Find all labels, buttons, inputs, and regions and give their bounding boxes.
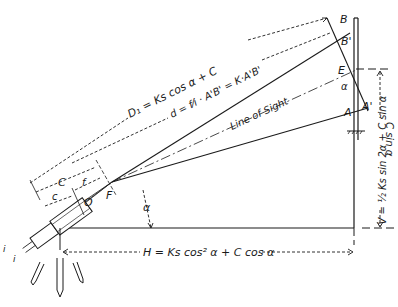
point-a-prime: A' — [361, 100, 373, 113]
perpendicular-rod-line — [327, 18, 368, 111]
alpha-label-e: α — [341, 81, 348, 92]
point-f: F — [106, 189, 113, 202]
point-o: O — [84, 196, 93, 209]
c-big-label: C — [58, 176, 66, 189]
d-dimension: d = f⁄i · A'B' = K·A'B' — [72, 33, 330, 163]
h-dimension: H = Ks cos² α + C cos α — [63, 246, 353, 259]
c-small-label: c — [52, 191, 58, 202]
i-label-bottom: i — [13, 254, 16, 264]
line-of-sight-label: Line of Sight — [228, 95, 290, 132]
point-a: A — [343, 106, 352, 119]
point-b-prime: B' — [341, 35, 352, 48]
point-e: E — [338, 64, 345, 77]
alpha-angle-f: α — [143, 190, 153, 228]
v-formula: V = ½ Ks sin 2α + C sin α — [377, 95, 388, 224]
alpha-label-f: α — [143, 201, 151, 214]
f-label: f — [82, 177, 87, 188]
i-label-top: i — [3, 244, 6, 254]
h-formula: H = Ks cos² α + C cos α — [143, 246, 275, 259]
v-dimension: C sin α V = ½ Ks sin 2α + C sin α — [377, 71, 395, 227]
leveling-rod — [347, 18, 365, 245]
point-b: B — [340, 13, 348, 26]
stadia-diagram: D₁ = Ks cos α + C d = f⁄i · A'B' = K·A'B… — [0, 0, 398, 307]
diagram-canvas: D₁ = Ks cos α + C d = f⁄i · A'B' = K·A'B… — [0, 0, 398, 307]
i-marks: i i — [3, 244, 16, 264]
